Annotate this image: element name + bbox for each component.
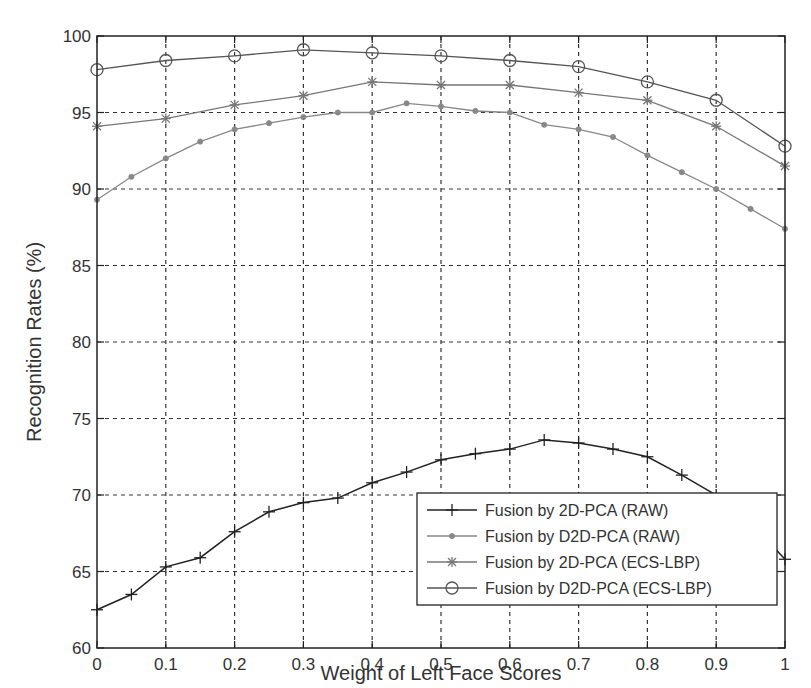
x-tick-label: 0.2: [223, 655, 247, 674]
legend-label: Fusion by 2D-PCA (RAW): [485, 502, 668, 519]
legend-label: Fusion by 2D-PCA (ECS-LBP): [485, 554, 700, 571]
y-tick-label: 65: [72, 563, 91, 582]
legend-label: Fusion by D2D-PCA (RAW): [485, 528, 680, 545]
x-tick-label: 0.3: [292, 655, 316, 674]
y-tick-label: 95: [72, 104, 91, 123]
legend-label: Fusion by D2D-PCA (ECS-LBP): [485, 580, 712, 597]
y-tick-label: 70: [72, 486, 91, 505]
y-axis-tick-labels: 6065707580859095100: [63, 27, 91, 658]
line-chart: 00.10.20.30.40.50.60.70.80.91 6065707580…: [0, 0, 811, 688]
x-tick-label: 0.1: [154, 655, 178, 674]
legend: Fusion by 2D-PCA (RAW)Fusion by D2D-PCA …: [417, 493, 777, 605]
x-tick-label: 0.8: [636, 655, 660, 674]
y-tick-label: 80: [72, 333, 91, 352]
y-tick-label: 60: [72, 639, 91, 658]
x-tick-label: 1: [780, 655, 789, 674]
y-tick-label: 75: [72, 410, 91, 429]
x-tick-label: 0.7: [567, 655, 591, 674]
x-axis-title: Weight of Left Face Scores: [321, 662, 562, 684]
x-tick-label: 0.9: [704, 655, 728, 674]
y-tick-label: 85: [72, 257, 91, 276]
y-axis-title: Recognition Rates (%): [23, 242, 45, 442]
y-tick-label: 90: [72, 180, 91, 199]
x-tick-label: 0: [92, 655, 101, 674]
y-tick-label: 100: [63, 27, 91, 46]
